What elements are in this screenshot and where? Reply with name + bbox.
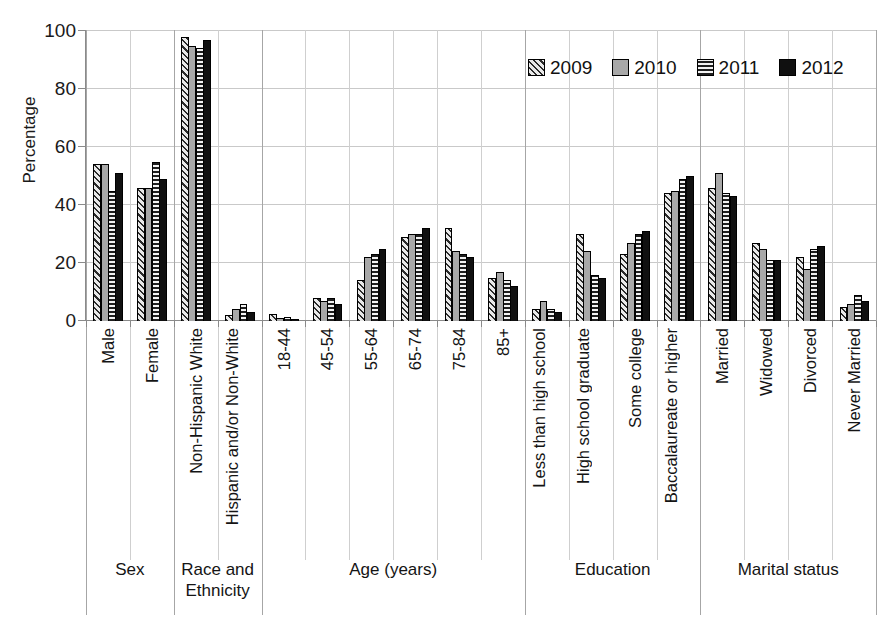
bar: [598, 278, 606, 322]
y-tick-label: 80: [30, 79, 76, 98]
category-label: Some college: [626, 328, 644, 428]
x-tick-mark: [525, 321, 526, 327]
group-label: Age (years): [262, 560, 525, 581]
legend: 2009201020112012: [528, 58, 844, 77]
x-tick-mark: [174, 321, 175, 327]
bar: [203, 40, 211, 321]
y-tick-label: 0: [30, 311, 76, 330]
bar: [291, 319, 299, 321]
y-tick-label: 40: [30, 195, 76, 214]
y-tick-mark: [78, 262, 85, 263]
group-label: Sex: [86, 560, 174, 581]
bar: [159, 179, 167, 321]
x-tick-mark: [349, 321, 350, 327]
category-label: 85+: [494, 328, 512, 356]
y-axis-tick-labels: 020406080100: [14, 0, 76, 628]
category-label: High school graduate: [574, 328, 608, 484]
bar: [774, 260, 782, 321]
legend-label: 2011: [719, 58, 760, 77]
legend-swatch-icon: [779, 59, 796, 76]
x-tick-mark: [218, 321, 219, 327]
y-tick-mark: [78, 204, 85, 205]
legend-item[interactable]: 2009: [528, 58, 592, 77]
category-label: Male: [99, 328, 117, 364]
y-tick-label: 20: [30, 253, 76, 272]
category-label: 45-54: [318, 328, 336, 370]
x-tick-mark: [86, 321, 87, 327]
category-label: Widowed: [757, 328, 775, 396]
y-tick-mark: [78, 146, 85, 147]
legend-item[interactable]: 2011: [697, 58, 760, 77]
x-tick-mark: [393, 321, 394, 327]
group-label: Race and Ethnicity: [174, 560, 262, 601]
legend-item[interactable]: 2012: [779, 58, 843, 77]
y-tick-mark: [78, 320, 85, 321]
category-label: Divorced: [801, 328, 819, 393]
category-label: Hispanic and/or Non-White: [223, 328, 257, 525]
bar: [115, 173, 123, 321]
group-label: Education: [525, 560, 701, 581]
bar: [730, 196, 738, 321]
x-tick-mark: [305, 321, 306, 327]
x-tick-mark: [437, 321, 438, 327]
x-tick-mark: [481, 321, 482, 327]
legend-label: 2010: [634, 58, 676, 77]
legend-label: 2009: [550, 58, 592, 77]
bar: [335, 304, 343, 321]
category-label: 55-64: [362, 328, 380, 370]
x-tick-mark: [876, 321, 877, 327]
y-tick-mark: [78, 30, 85, 31]
x-tick-mark: [613, 321, 614, 327]
legend-item[interactable]: 2010: [612, 58, 676, 77]
category-label: 65-74: [406, 328, 424, 370]
bar: [379, 249, 387, 322]
bar: [686, 176, 694, 321]
bar: [861, 301, 869, 321]
category-label: Non-Hispanic White: [187, 328, 205, 474]
category-label: Never Married: [845, 328, 863, 433]
x-tick-mark: [744, 321, 745, 327]
bar-chart: Percentage 020406080100 MaleFemaleNon-Hi…: [0, 0, 890, 628]
bar: [642, 231, 650, 321]
x-tick-mark: [130, 321, 131, 327]
x-tick-mark: [262, 321, 263, 327]
bar: [510, 286, 518, 321]
bar: [554, 312, 562, 321]
category-label: Baccalaureate or higher: [662, 328, 696, 503]
legend-swatch-icon: [612, 59, 629, 76]
y-tick-label: 100: [30, 21, 76, 40]
bar: [466, 257, 474, 321]
bar: [422, 228, 430, 321]
category-label: Less than high school: [530, 328, 564, 488]
category-label: Married: [713, 328, 731, 384]
legend-swatch-icon: [697, 59, 714, 76]
category-label: Female: [143, 328, 161, 383]
legend-swatch-icon: [528, 59, 545, 76]
group-label: Marital status: [700, 560, 876, 581]
category-label: 75-84: [450, 328, 468, 370]
bar: [247, 312, 255, 321]
bar: [817, 246, 825, 321]
x-tick-mark: [832, 321, 833, 327]
x-tick-mark: [657, 321, 658, 327]
legend-label: 2012: [801, 58, 843, 77]
x-tick-mark: [700, 321, 701, 327]
category-label: 18-44: [275, 328, 293, 370]
y-tick-label: 60: [30, 137, 76, 156]
y-tick-mark: [78, 88, 85, 89]
x-tick-mark: [788, 321, 789, 327]
x-tick-mark: [569, 321, 570, 327]
